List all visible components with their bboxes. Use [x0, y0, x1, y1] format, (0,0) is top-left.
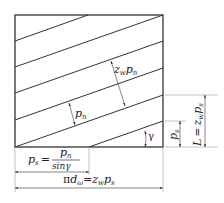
zw-pn-label: zwpn [113, 63, 138, 77]
worm-helix-diagram: zwpn pn γ ps L=zwps ps= pn sinγ πdω=zwps [0, 0, 224, 203]
gamma-arc [145, 131, 146, 147]
pi-d-formula: πdω=zwps [63, 173, 115, 187]
helix-lines [15, 15, 163, 147]
gamma-label: γ [148, 130, 154, 141]
ps-formula-denominator: sinγ [52, 161, 71, 171]
L-label: L=zwps [191, 103, 205, 147]
ps-formula-lhs: ps= [28, 153, 50, 167]
ps-formula-numerator: pn [60, 146, 72, 160]
developed-cylinder-box [15, 15, 163, 147]
pn-label: pn [75, 107, 87, 121]
ps-right-label: ps [167, 129, 181, 140]
